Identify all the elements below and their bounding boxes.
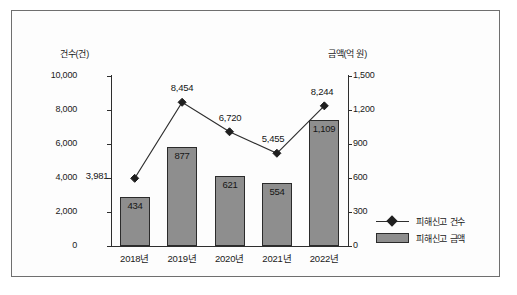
chart-figure: 건수(건) 금액(억 원) 02,0004,0006,0008,00010,00… [11,10,500,277]
legend-label-bar: 피해신고 금액 [416,232,465,245]
line-marker-diamond [178,98,186,106]
chart-legend: 피해신고 건수 피해신고 금액 [370,213,492,247]
legend-item-line: 피해신고 건수 [370,213,492,230]
legend-label-line: 피해신고 건수 [416,215,465,228]
line-marker-diamond [131,174,139,182]
legend-bar-icon [376,233,409,243]
line-value-label: 8,454 [157,82,207,93]
legend-diamond-icon [386,215,397,226]
line-value-label: 8,244 [297,86,347,97]
line-value-label: 5,455 [248,133,298,144]
line-value-label: 3,981 [72,170,122,181]
legend-item-bar: 피해신고 금액 [370,230,492,247]
line-value-label: 6,720 [205,112,255,123]
line-marker-diamond [226,128,234,136]
